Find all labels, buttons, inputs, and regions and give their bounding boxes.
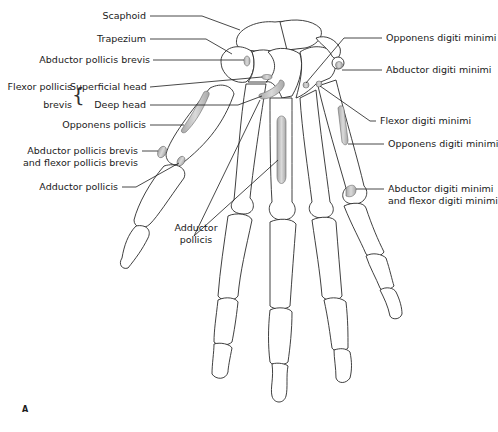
label-opponens-pollicis: Opponens pollicis [40,119,146,131]
abductor-digiti-minimi-attachment [336,62,343,69]
label-flexor-pollicis-brevis-line2: brevis [2,99,72,111]
metacarpals [231,80,367,220]
ring-distal-phalanx [334,349,352,383]
label-abductor-digiti-minimi: Abductor digiti minimi [386,64,491,76]
label-adm-fdm-line1: Abductor digiti minimi [388,183,493,195]
scaphoid-leader [150,16,240,30]
label-adductor-pollicis-center-line2: pollicis [166,234,226,246]
ring-proximal-phalanx [312,217,342,300]
label-trapezium: Trapezium [60,33,146,45]
little-distal-phalanx [380,288,402,319]
label-adductor-pollicis-left: Adductor pollicis [20,181,118,193]
little-proximal-phalanx [344,203,384,257]
fpb-superficial-head-attachment [262,75,272,80]
label-flexor-digiti-minimi: Flexor digiti minimi [380,115,471,127]
index-middle-phalanx [214,298,238,345]
ring-middle-phalanx [324,298,348,351]
index-distal-phalanx [212,343,232,378]
thumb-distal-phalanx [120,226,149,269]
opponens-digiti-minimi-attachment-2 [316,81,322,87]
hand-anatomy-figure: Scaphoid Trapezium Abductor pollicis bre… [0,0,498,432]
trapezium-leader [150,39,232,54]
middle-middle-phalanx [269,308,293,365]
label-opponens-digiti-minimi-top: Opponens digiti minimi [386,32,496,44]
label-apb-fpb-line1: Abductor pollicis brevis [10,145,138,157]
label-adductor-pollicis-center-line1: Adductor [166,222,226,234]
label-deep-head: Deep head [70,99,146,111]
label-adm-fdm-line2: and flexor digiti minimi [388,195,498,207]
label-abductor-pollicis-brevis: Abductor pollicis brevis [10,54,150,66]
ring-finger [312,217,352,382]
label-flexor-pollicis-brevis-line1: Flexor pollicis [2,81,72,93]
abductor-pollicis-brevis-attachment [244,56,250,66]
label-superficial-head: Superficial head [70,81,146,93]
label-apb-fpb-line2: and flexor pollicis brevis [10,157,138,169]
middle-finger [269,219,297,402]
label-opponens-digiti-minimi: Opponens digiti minimi [388,138,498,150]
panel-label: A [22,404,28,416]
middle-proximal-phalanx [270,219,296,309]
little-middle-phalanx [366,254,394,290]
little-finger [344,203,402,319]
lunate-bone [280,20,321,50]
adductor-pollicis-metacarpal-attachment [277,116,286,184]
label-scaphoid: Scaphoid [60,10,146,22]
middle-distal-phalanx [271,363,288,402]
